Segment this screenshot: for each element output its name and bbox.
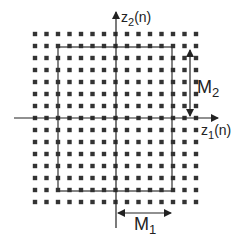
- m2-label: M2: [197, 77, 219, 100]
- lattice-point: [33, 68, 37, 72]
- lattice-point: [33, 176, 37, 180]
- lattice-point: [194, 176, 198, 180]
- lattice-point: [67, 152, 71, 156]
- lattice-point: [90, 140, 94, 144]
- lattice-point: [125, 152, 129, 156]
- lattice-point: [67, 164, 71, 168]
- lattice-point: [44, 152, 48, 156]
- lattice-point: [90, 200, 94, 204]
- lattice-point: [182, 104, 186, 108]
- lattice-point: [79, 176, 83, 180]
- lattice-point: [102, 68, 106, 72]
- lattice-point: [44, 140, 48, 144]
- lattice-point: [194, 164, 198, 168]
- lattice-point: [194, 104, 198, 108]
- lattice-point: [159, 152, 163, 156]
- lattice-point: [33, 44, 37, 48]
- lattice-point: [182, 200, 186, 204]
- lattice-point: [136, 164, 140, 168]
- lattice-point: [136, 80, 140, 84]
- lattice-point: [79, 140, 83, 144]
- lattice-point: [148, 80, 152, 84]
- lattice-point: [125, 200, 129, 204]
- lattice-point: [125, 80, 129, 84]
- lattice-point: [148, 152, 152, 156]
- lattice-point: [90, 164, 94, 168]
- lattice-point: [44, 92, 48, 96]
- lattice-point: [67, 140, 71, 144]
- lattice-diagram: z2(n) z1(n) M2 M1: [0, 0, 238, 242]
- lattice-point: [67, 56, 71, 60]
- lattice-point: [102, 164, 106, 168]
- lattice-point: [33, 140, 37, 144]
- lattice-point: [33, 32, 37, 36]
- lattice-point: [148, 176, 152, 180]
- lattice-point: [148, 32, 152, 36]
- lattice-point: [136, 152, 140, 156]
- lattice-point: [102, 152, 106, 156]
- lattice-point: [194, 140, 198, 144]
- lattice-point: [67, 176, 71, 180]
- lattice-point: [102, 140, 106, 144]
- lattice-point: [44, 200, 48, 204]
- lattice-point: [79, 200, 83, 204]
- lattice-point: [79, 128, 83, 132]
- lattice-point: [125, 32, 129, 36]
- lattice-point: [148, 92, 152, 96]
- lattice-point: [79, 56, 83, 60]
- lattice-point: [90, 128, 94, 132]
- lattice-point: [182, 80, 186, 84]
- lattice-point: [182, 176, 186, 180]
- lattice-point: [136, 200, 140, 204]
- lattice-point: [33, 164, 37, 168]
- lattice-point: [148, 104, 152, 108]
- lattice-point: [90, 56, 94, 60]
- lattice-point: [159, 164, 163, 168]
- lattice-point: [79, 68, 83, 72]
- lattice-point: [125, 128, 129, 132]
- lattice-point: [102, 92, 106, 96]
- lattice-point: [148, 164, 152, 168]
- lattice-point: [33, 80, 37, 84]
- lattice-point: [90, 104, 94, 108]
- lattice-point: [159, 92, 163, 96]
- lattice-point: [33, 56, 37, 60]
- lattice-point: [67, 32, 71, 36]
- lattice-point: [79, 152, 83, 156]
- lattice-point: [102, 32, 106, 36]
- lattice-point: [159, 68, 163, 72]
- lattice-point: [79, 80, 83, 84]
- lattice-point: [33, 128, 37, 132]
- lattice-point: [90, 68, 94, 72]
- lattice-point: [159, 104, 163, 108]
- lattice-point: [102, 104, 106, 108]
- lattice-point: [194, 200, 198, 204]
- lattice-point: [90, 32, 94, 36]
- m1-label: M1: [134, 214, 156, 237]
- lattice-point: [102, 56, 106, 60]
- lattice-point: [67, 80, 71, 84]
- lattice-point: [136, 104, 140, 108]
- lattice-point: [194, 32, 198, 36]
- lattice-point: [159, 128, 163, 132]
- lattice-point: [182, 68, 186, 72]
- lattice-point: [194, 44, 198, 48]
- lattice-point: [56, 200, 60, 204]
- lattice-point: [33, 92, 37, 96]
- lattice-point: [182, 44, 186, 48]
- lattice-point: [33, 188, 37, 192]
- lattice-point: [67, 200, 71, 204]
- lattice-point: [33, 200, 37, 204]
- lattice-point: [125, 56, 129, 60]
- lattice-point: [194, 152, 198, 156]
- lattice-point: [33, 104, 37, 108]
- lattice-point: [90, 152, 94, 156]
- lattice-point: [194, 56, 198, 60]
- lattice-point: [148, 68, 152, 72]
- lattice-point: [44, 80, 48, 84]
- lattice-point: [67, 128, 71, 132]
- lattice-point: [44, 56, 48, 60]
- lattice-point: [159, 56, 163, 60]
- lattice-point: [44, 128, 48, 132]
- lattice-point: [182, 32, 186, 36]
